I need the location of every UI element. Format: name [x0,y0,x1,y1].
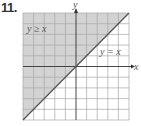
region-label: y ≥ x [26,23,47,34]
inequality-graph: y x y ≥ x y = x [0,0,141,126]
x-axis-label: x [133,61,139,72]
line-label: y = x [99,46,121,57]
y-axis-label: y [72,0,78,10]
